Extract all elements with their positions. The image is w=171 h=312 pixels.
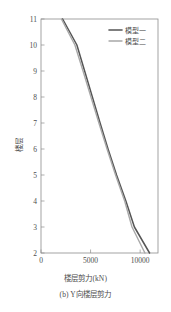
y-tick-label: 11 — [30, 15, 37, 24]
chart-background — [0, 0, 171, 312]
x-axis-title: 楼层剪力(kN) — [0, 272, 171, 283]
y-tick-label: 3 — [33, 223, 37, 232]
x-tick-label: 5000 — [83, 256, 98, 265]
y-tick-label: 7 — [33, 119, 37, 128]
legend-label-2: 模型二 — [125, 37, 146, 46]
y-axis-title: 楼层 — [14, 137, 24, 152]
legend-label-1: 模型一 — [125, 26, 146, 35]
y-tick-label: 10 — [30, 41, 38, 50]
figure-caption: (b) Y向楼层剪力 — [0, 288, 171, 299]
shear-force-line-chart: 234567891011 0500010000 模型一模型二 楼层 — [0, 0, 171, 312]
x-tick-label: 0 — [39, 256, 43, 265]
x-tick-label: 10000 — [131, 256, 150, 265]
y-tick-label: 4 — [33, 197, 37, 206]
y-tick-label: 9 — [33, 67, 37, 76]
y-tick-label: 8 — [33, 93, 37, 102]
y-tick-label: 2 — [33, 249, 37, 258]
y-tick-label: 5 — [33, 171, 37, 180]
figure-panel: 234567891011 0500010000 模型一模型二 楼层 楼层剪力(k… — [0, 0, 171, 312]
y-tick-label: 6 — [33, 145, 37, 154]
